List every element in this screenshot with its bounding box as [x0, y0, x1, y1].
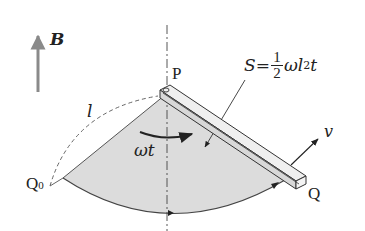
area-formula-fraction: 1 2 [271, 50, 283, 81]
velocity-arrow-icon [291, 139, 318, 165]
start-point-label: Q0 [26, 175, 44, 192]
area-formula: S= 1 2 ωl2t [244, 50, 317, 81]
fraction-denominator: 2 [273, 66, 281, 81]
area-formula-t: t [310, 57, 317, 74]
start-point-letter: Q [26, 174, 38, 193]
pivot-label: P [172, 65, 181, 82]
end-point-label: Q [308, 185, 320, 202]
area-formula-omega-l: ωl [284, 57, 303, 74]
diagram-canvas: B P l ωt Q0 Q v S= 1 2 ωl2t [0, 0, 365, 231]
velocity-label: v [324, 124, 333, 140]
angle-label: ωt [134, 142, 155, 159]
field-label: B [50, 31, 64, 48]
area-formula-lhs: S= [244, 57, 270, 74]
length-label: l [87, 103, 92, 120]
start-point-subscript: 0 [38, 179, 44, 191]
fraction-numerator: 1 [273, 50, 281, 65]
area-formula-exponent: 2 [303, 60, 310, 71]
